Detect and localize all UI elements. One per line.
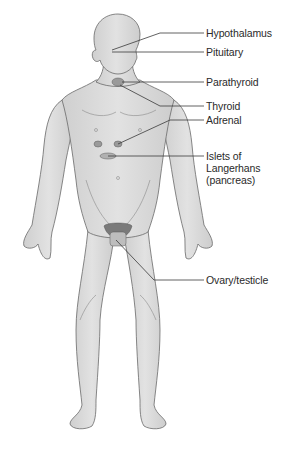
torso bbox=[62, 80, 174, 238]
label-pituitary: Pituitary bbox=[206, 46, 243, 58]
left-leg bbox=[70, 230, 114, 429]
label-hypothalamus: Hypothalamus bbox=[206, 27, 272, 39]
label-islets-of-langerhans: Islets of Langerhans (pancreas) bbox=[206, 150, 284, 186]
head bbox=[92, 14, 140, 74]
testicle bbox=[110, 232, 126, 246]
label-thyroid: Thyroid bbox=[206, 100, 240, 112]
human-body-figure bbox=[24, 14, 213, 429]
label-parathyroid: Parathyroid bbox=[206, 76, 259, 88]
right-leg bbox=[124, 230, 166, 429]
endocrine-body-diagram bbox=[0, 0, 284, 452]
right-arm bbox=[162, 100, 212, 259]
label-adrenal: Adrenal bbox=[206, 114, 242, 126]
label-ovary-testicle: Ovary/testicle bbox=[206, 274, 268, 286]
left-adrenal-gland bbox=[94, 141, 102, 147]
left-arm bbox=[24, 100, 74, 259]
